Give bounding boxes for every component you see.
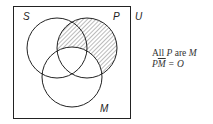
caption-m-complement: M <box>158 59 166 69</box>
caption-text: All <box>152 48 167 58</box>
label-m: M <box>100 103 109 114</box>
label-s: S <box>23 11 30 22</box>
caption-line-2: PM = O <box>152 59 197 70</box>
caption-text: are <box>172 48 188 58</box>
label-u: U <box>135 11 143 22</box>
caption-m: M <box>189 48 197 58</box>
caption-equals-empty: = O <box>166 59 184 69</box>
label-p: P <box>113 11 120 22</box>
caption-line-1: All P are M <box>152 48 197 59</box>
caption: All P are M PM = O <box>152 48 197 70</box>
